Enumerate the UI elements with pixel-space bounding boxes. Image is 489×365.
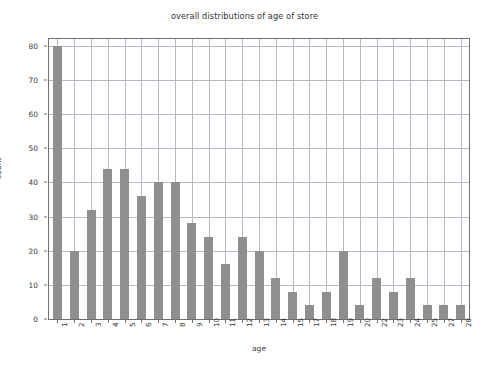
- x-tick-label: 17: [312, 318, 321, 327]
- x-tick-label: 7: [161, 322, 170, 327]
- x-tick-mark: [259, 320, 260, 323]
- x-tick-mark: [461, 320, 462, 323]
- x-tick-label: 19: [346, 318, 355, 327]
- x-tick-label: 25: [430, 318, 439, 327]
- bar: [171, 182, 180, 319]
- x-tick-mark: [108, 320, 109, 323]
- x-tick-label: 18: [329, 318, 338, 327]
- gridline-vertical: [461, 39, 462, 319]
- bar: [204, 237, 213, 319]
- chart-title: overall distributions of age of store: [0, 11, 489, 21]
- y-tick-mark: [44, 216, 47, 217]
- x-tick-mark: [444, 320, 445, 323]
- gridline-vertical: [427, 39, 428, 319]
- bar: [187, 223, 196, 319]
- x-tick-mark: [326, 320, 327, 323]
- y-tick-mark: [44, 148, 47, 149]
- bar: [255, 251, 264, 319]
- x-tick-mark: [242, 320, 243, 323]
- gridline-vertical: [326, 39, 327, 319]
- x-tick-label: 24: [413, 318, 422, 327]
- y-tick-mark: [44, 284, 47, 285]
- gridline-vertical: [309, 39, 310, 319]
- bar: [288, 292, 297, 319]
- x-tick-label: 10: [212, 318, 221, 327]
- bar: [389, 292, 398, 319]
- y-tick-label: 0: [33, 315, 38, 324]
- bar: [87, 210, 96, 319]
- y-tick-mark: [44, 114, 47, 115]
- x-tick-label: 4: [111, 322, 120, 327]
- x-tick-mark: [309, 320, 310, 323]
- bar: [322, 292, 331, 319]
- y-tick-label: 20: [29, 246, 38, 255]
- x-tick-mark: [276, 320, 277, 323]
- x-tick-label: 15: [296, 318, 305, 327]
- x-tick-mark: [125, 320, 126, 323]
- x-tick-label: 5: [128, 322, 137, 327]
- x-tick-mark: [427, 320, 428, 323]
- y-tick-label: 70: [29, 75, 38, 84]
- y-tick-mark: [44, 79, 47, 80]
- x-tick-mark: [410, 320, 411, 323]
- x-tick-mark: [225, 320, 226, 323]
- bar: [70, 251, 79, 319]
- y-tick-label: 30: [29, 212, 38, 221]
- x-tick-label: 1: [60, 322, 69, 327]
- x-tick-label: 6: [144, 322, 153, 327]
- y-tick-mark: [44, 45, 47, 46]
- x-tick-mark: [360, 320, 361, 323]
- y-tick-label: 50: [29, 144, 38, 153]
- x-tick-label: 9: [195, 322, 204, 327]
- x-tick-label: 11: [228, 318, 237, 327]
- x-tick-mark: [57, 320, 58, 323]
- gridline-vertical: [444, 39, 445, 319]
- x-tick-label: 20: [363, 318, 372, 327]
- y-tick-label: 10: [29, 280, 38, 289]
- bar: [120, 169, 129, 319]
- y-tick-label: 80: [29, 41, 38, 50]
- gridline-vertical: [393, 39, 394, 319]
- x-tick-label: 22: [380, 318, 389, 327]
- x-tick-label: 8: [178, 322, 187, 327]
- bar: [238, 237, 247, 319]
- bar: [103, 169, 112, 319]
- y-tick-mark: [44, 319, 47, 320]
- gridline-vertical: [360, 39, 361, 319]
- chart-figure: overall distributions of age of store co…: [0, 0, 489, 365]
- x-tick-label: 27: [447, 318, 456, 327]
- x-tick-label: 12: [245, 318, 254, 327]
- bar: [372, 278, 381, 319]
- bar: [53, 46, 62, 319]
- x-tick-mark: [74, 320, 75, 323]
- gridline-vertical: [293, 39, 294, 319]
- gridline-vertical: [410, 39, 411, 319]
- x-tick-mark: [192, 320, 193, 323]
- bar: [154, 182, 163, 319]
- bar: [406, 278, 415, 319]
- x-tick-mark: [158, 320, 159, 323]
- x-tick-label: 14: [279, 318, 288, 327]
- x-tick-mark: [377, 320, 378, 323]
- x-tick-label: 3: [94, 322, 103, 327]
- bar: [339, 251, 348, 319]
- y-tick-label: 60: [29, 110, 38, 119]
- bar: [221, 264, 230, 319]
- gridline-vertical: [276, 39, 277, 319]
- x-tick-mark: [209, 320, 210, 323]
- x-tick-label: 13: [262, 318, 271, 327]
- bar: [271, 278, 280, 319]
- x-tick-mark: [175, 320, 176, 323]
- x-tick-label: 2: [77, 322, 86, 327]
- x-tick-label: 23: [396, 318, 405, 327]
- x-tick-mark: [343, 320, 344, 323]
- x-axis-label: age: [48, 344, 470, 353]
- y-tick-label: 40: [29, 178, 38, 187]
- bar: [137, 196, 146, 319]
- x-tick-mark: [393, 320, 394, 323]
- y-axis-tick-labels: 01020304050607080: [0, 38, 44, 320]
- gridline-vertical: [377, 39, 378, 319]
- x-tick-mark: [91, 320, 92, 323]
- y-tick-mark: [44, 250, 47, 251]
- plot-area: [48, 38, 470, 320]
